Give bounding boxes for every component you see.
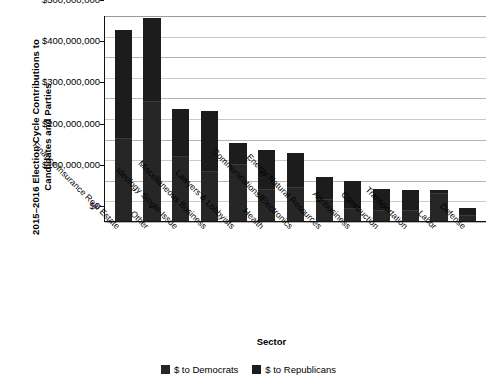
bar-segment-republicans	[172, 109, 189, 156]
bar-segment-republicans	[459, 208, 476, 215]
chart-legend: $ to Democrats$ to Republicans	[0, 364, 497, 375]
bar-segment-republicans	[402, 190, 419, 210]
bar-chart: 2015–2016 Election Cycle Contributions t…	[0, 0, 497, 390]
x-axis-tick-labels: Finance Insurance Real EstateOtherIdeolo…	[104, 224, 486, 336]
legend-swatch-icon	[252, 365, 261, 374]
x-axis-title: Sector	[0, 336, 497, 347]
x-tick-label: Health	[259, 224, 284, 249]
x-tick-label: Other	[144, 224, 166, 246]
bar-slot	[310, 16, 339, 221]
y-tick-label: $500,000,000	[0, 0, 100, 5]
x-axis-title-text: Sector	[257, 336, 287, 347]
legend-item: $ to Republicans	[252, 364, 336, 375]
y-tick-label: $0	[0, 201, 100, 211]
bar-slot	[453, 16, 482, 221]
legend-label: $ to Democrats	[174, 364, 238, 375]
bar-segment-republicans	[143, 18, 160, 100]
y-tick-label: $300,000,000	[0, 77, 100, 87]
bar-slot	[425, 16, 454, 221]
y-tick-mark	[100, 0, 104, 1]
y-tick-label: $200,000,000	[0, 119, 100, 129]
bar-slot	[396, 16, 425, 221]
legend-label: $ to Republicans	[265, 364, 336, 375]
bar-segment-republicans	[115, 30, 132, 138]
x-tick-label: Labor	[432, 224, 455, 247]
y-axis-ticks: $500,000,000$400,000,000$300,000,000$200…	[0, 0, 104, 206]
bar[interactable]	[115, 30, 132, 221]
bar-segment-republicans	[201, 111, 218, 171]
y-tick-label: $400,000,000	[0, 36, 100, 46]
legend-item: $ to Democrats	[161, 364, 238, 375]
bar-segment-republicans	[287, 153, 304, 187]
x-tick-label: Defense	[461, 224, 491, 254]
legend-swatch-icon	[161, 365, 170, 374]
